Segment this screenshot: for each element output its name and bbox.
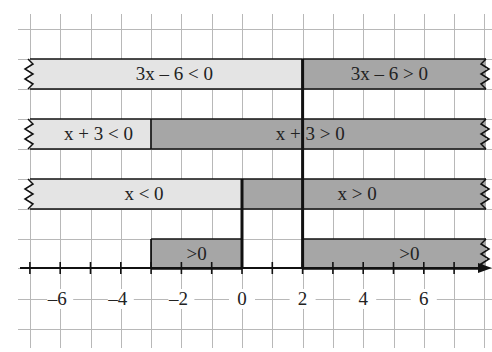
- zigzag-left-icon: [25, 179, 33, 209]
- row-product: >0>0: [151, 239, 489, 269]
- segment-label: x + 3 > 0: [276, 123, 345, 144]
- sign-chart-diagram: 3x – 6 < 03x – 6 > 0x + 3 < 0x + 3 > 0x …: [0, 0, 492, 352]
- segment-label: 3x – 6 < 0: [136, 63, 213, 84]
- segment-label: x < 0: [124, 183, 163, 204]
- row-factor-3x-6: 3x – 6 < 03x – 6 > 0: [25, 59, 489, 89]
- zigzag-left-icon: [25, 59, 33, 89]
- segment-label: >0: [399, 243, 419, 264]
- tick-label: 6: [419, 288, 429, 309]
- zigzag-left-icon: [25, 119, 33, 149]
- segment-label: x + 3 < 0: [64, 123, 133, 144]
- sign-bars: 3x – 6 < 03x – 6 > 0x + 3 < 0x + 3 > 0x …: [25, 59, 489, 269]
- segment-label: 3x – 6 > 0: [351, 63, 428, 84]
- tick-label: 2: [298, 288, 308, 309]
- segment-label: >0: [186, 243, 206, 264]
- tick-label: –2: [168, 288, 188, 309]
- tick-labels: –6–4–20246: [47, 288, 437, 309]
- row-factor-x: x < 0x > 0: [25, 179, 489, 209]
- tick-label: –4: [107, 288, 128, 309]
- row-factor-x+3: x + 3 < 0x + 3 > 0: [25, 119, 489, 149]
- critical-lines: [151, 59, 303, 268]
- segment-label: x > 0: [338, 183, 377, 204]
- tick-label: –6: [47, 288, 67, 309]
- tick-label: 4: [358, 288, 368, 309]
- tick-label: 0: [237, 288, 247, 309]
